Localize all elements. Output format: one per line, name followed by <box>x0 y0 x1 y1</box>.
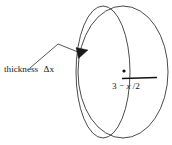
washer-ring-figure: thickness Δx 3 − x /2 <box>0 0 172 145</box>
leader-arrowhead-icon <box>76 48 88 59</box>
radius-label: 3 − x /2 <box>112 81 140 91</box>
back-face-ellipse <box>76 6 130 138</box>
radius-label-variable: x <box>125 81 131 91</box>
radius-label-prefix: 3 − <box>112 81 126 91</box>
radius-line <box>122 78 157 79</box>
thickness-symbol: Δx <box>44 64 55 74</box>
center-point-dot <box>122 69 125 72</box>
thickness-label: thickness Δx <box>4 64 54 74</box>
thickness-word: thickness <box>4 64 39 74</box>
diagram-canvas: thickness Δx 3 − x /2 <box>0 0 172 145</box>
radius-label-suffix: /2 <box>133 81 141 91</box>
